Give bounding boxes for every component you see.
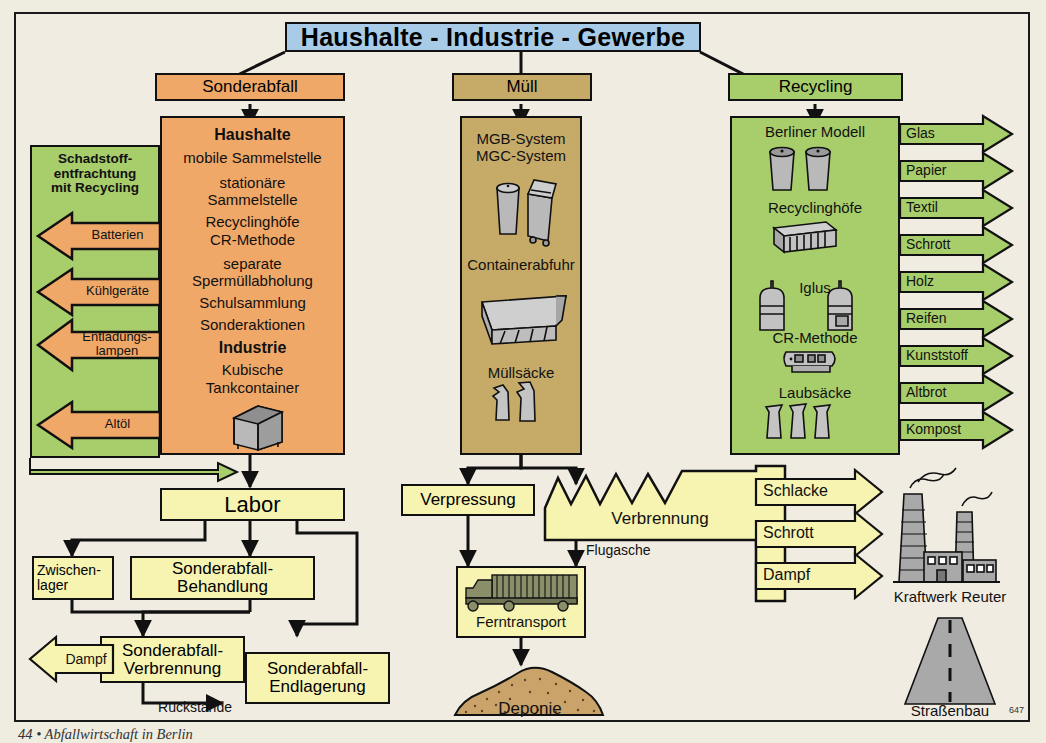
sonderabfall-line-recyclinghoefe: Recyclinghöfe <box>160 214 345 230</box>
muell-line-mgc: MGC-System <box>460 148 582 164</box>
sonderabfall-line-sammelstelle: Sammelstelle <box>160 192 345 208</box>
recycling-output-label-reifen: Reifen <box>906 311 996 326</box>
column-head-muell[interactable]: Müll <box>452 73 592 101</box>
sonderabfall-line-industrie: Industrie <box>160 339 345 356</box>
schadstoff-arrow-label-kuehlgeraete: Kühlgeräte <box>75 284 160 298</box>
muell-line-containerabfuhr: Containerabfuhr <box>455 257 587 273</box>
recycling-output-label-textil: Textil <box>906 200 996 215</box>
recycling-line-laubsaecke: Laubsäcke <box>730 385 900 401</box>
sonderabfall-endlagerung-label: Sonderabfall- Endlagerung <box>267 660 368 696</box>
diagram-page: Haushalte - Industrie - Gewerbe Sonderab… <box>0 0 1046 743</box>
recycling-line-berliner-modell: Berliner Modell <box>730 124 900 140</box>
schadstoff-title: Schadstoff- entfrachtung mit Recycling <box>34 152 156 196</box>
schadstoff-arrow-label-altoel: Altöl <box>75 417 160 431</box>
muell-line-mgb: MGB-System <box>460 131 582 147</box>
sonderabfall-line-cr-methode: CR-Methode <box>160 232 345 248</box>
recycling-output-label-glas: Glas <box>906 126 996 141</box>
column-head-muell-label: Müll <box>506 78 537 96</box>
recycling-output-label-holz: Holz <box>906 274 996 289</box>
sonderabfall-line-schulsammlung: Schulsammlung <box>160 295 345 311</box>
incineration-output-label-schrott: Schrott <box>763 524 863 541</box>
schadstoff-arrow-label-entladungslampen: Entladungs- lampen <box>73 330 161 358</box>
zwischenlager-box[interactable]: Zwischen- lager <box>32 556 114 600</box>
incineration-output-label-schlacke: Schlacke <box>763 482 863 499</box>
zwischenlager-label: Zwischen- lager <box>37 563 109 592</box>
muell-line-muellsaecke: Müllsäcke <box>460 365 582 381</box>
sonderabfall-line-stationaere: stationäre <box>160 175 345 191</box>
labor-label: Labor <box>224 493 280 516</box>
recycling-line-cr-methode: CR-Methode <box>730 330 900 346</box>
rueckstaende-label: Rückstände <box>140 700 250 715</box>
sonderabfall-line-sonderaktionen: Sonderaktionen <box>160 317 345 333</box>
sonderabfall-line-kubische: Kubische <box>160 362 345 378</box>
header-title-box: Haushalte - Industrie - Gewerbe <box>285 22 701 52</box>
recycling-output-label-kunststoff: Kunststoff <box>906 348 1001 363</box>
sonderabfall-verbrennung-box[interactable]: Sonderabfall- Verbrennung <box>100 636 245 683</box>
column-head-sonderabfall[interactable]: Sonderabfall <box>155 73 345 101</box>
column-head-recycling-label: Recycling <box>779 78 853 96</box>
incineration-output-label-dampf: Dampf <box>763 566 863 583</box>
labor-box[interactable]: Labor <box>160 488 345 521</box>
sonderabfall-line-haushalte: Haushalte <box>160 126 345 143</box>
recycling-output-label-papier: Papier <box>906 163 996 178</box>
destination-label-strassenbau: Straßenbau <box>880 703 1020 719</box>
column-head-recycling[interactable]: Recycling <box>728 73 903 101</box>
schadstoff-arrow-label-batterien: Batterien <box>75 228 160 242</box>
recycling-output-label-kompost: Kompost <box>906 422 996 437</box>
flugasche-label: Flugasche <box>586 543 676 558</box>
dampf-label: Dampf <box>58 652 114 667</box>
sonderabfall-line-tankcontainer: Tankcontainer <box>160 380 345 396</box>
sonderabfall-line-mobile-sammelstelle: mobile Sammelstelle <box>160 150 345 166</box>
page-title: Haushalte - Industrie - Gewerbe <box>301 24 685 50</box>
recycling-output-label-altbrot: Altbrot <box>906 385 996 400</box>
deponie-label: Deponie <box>455 700 605 718</box>
sonderabfall-endlagerung-box[interactable]: Sonderabfall- Endlagerung <box>245 652 390 704</box>
sonderabfall-verbrennung-label: Sonderabfall- Verbrennung <box>122 642 223 678</box>
behandlung-label: Sonderabfall- Behandlung <box>172 560 273 596</box>
figure-caption: 44 • Abfallwirtschaft in Berlin <box>18 726 193 743</box>
muell-panel <box>460 116 582 455</box>
recycling-line-iglus: Iglus <box>730 280 900 296</box>
recycling-output-label-schrott: Schrott <box>906 237 996 252</box>
page-number: 647 <box>1009 705 1024 715</box>
verpressung-box[interactable]: Verpressung <box>401 484 535 516</box>
behandlung-box[interactable]: Sonderabfall- Behandlung <box>130 556 315 600</box>
column-head-sonderabfall-label: Sonderabfall <box>202 78 297 96</box>
sonderabfall-line-separate: separate <box>160 256 345 272</box>
ferntransport-label: Ferntransport <box>456 614 586 630</box>
verpressung-label: Verpressung <box>420 491 515 509</box>
destination-label-kraftwerk-reuter: Kraftwerk Reuter <box>880 589 1020 605</box>
verbrennung-label: Verbrennung <box>590 510 730 528</box>
sonderabfall-line-spermuellabholung: Spermüllabholung <box>160 273 345 289</box>
recycling-line-recyclinghoefe: Recyclinghöfe <box>730 200 900 216</box>
